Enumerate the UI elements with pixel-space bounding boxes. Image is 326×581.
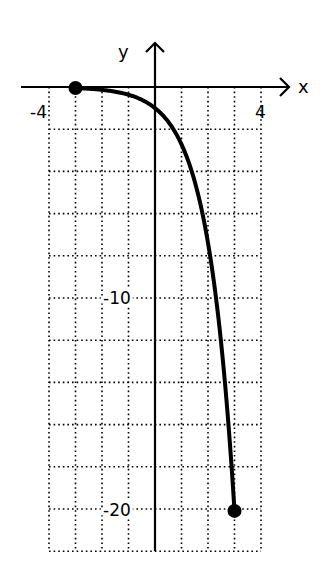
y-axis-label: y — [118, 41, 129, 62]
endpoint-dot — [228, 504, 242, 518]
x-axis-label: x — [298, 76, 309, 97]
y-tick-label-mid: -10 — [103, 288, 131, 308]
x-tick-label-max: 4 — [255, 102, 266, 122]
exponential-graph: y x -4 4 -10 -20 — [0, 0, 326, 581]
y-tick-label-min: -20 — [103, 500, 131, 520]
endpoint-dot — [69, 81, 83, 95]
x-tick-label-min: -4 — [30, 102, 47, 122]
axes — [21, 43, 289, 551]
